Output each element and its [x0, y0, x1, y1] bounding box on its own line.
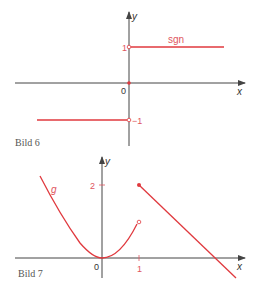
g-label: g — [51, 184, 57, 195]
figure-6-caption: Bild 6 — [15, 137, 40, 148]
origin-label: 0 — [121, 86, 126, 96]
tick-label-1: 1 — [122, 43, 127, 53]
origin-point — [127, 81, 131, 85]
y-axis-label: y — [131, 11, 138, 22]
g-linear-branch — [139, 185, 236, 278]
open-point-neg1 — [127, 118, 131, 122]
x-axis-label: x — [236, 261, 243, 272]
sgn-label: sgn — [168, 34, 184, 45]
figure-7-caption: Bild 7 — [18, 268, 43, 279]
tick-label-y2: 2 — [90, 181, 95, 191]
origin-label: 0 — [94, 262, 99, 272]
open-point-1 — [127, 45, 131, 49]
figure-6-sgn: sgn y x 0 1 −1 — [15, 11, 245, 146]
figures-canvas: sgn y x 0 1 −1 g y x 0 2 1 — [0, 0, 259, 297]
y-axis-label: y — [104, 156, 111, 167]
open-point-x1 — [137, 220, 141, 224]
tick-label-neg1: −1 — [132, 116, 142, 126]
x-axis-label: x — [236, 86, 243, 97]
closed-point-x1 — [137, 183, 141, 187]
figure-7-g: g y x 0 2 1 — [15, 156, 245, 278]
tick-label-x1: 1 — [137, 264, 142, 274]
